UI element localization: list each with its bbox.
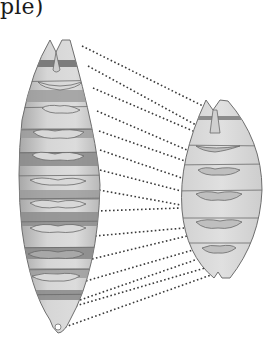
connector-line [99,131,185,161]
embryo-segment-mapping-diagram [0,0,263,339]
connector-line [72,268,205,307]
connector-line [80,259,198,300]
connector-line [65,275,211,327]
connector-line [82,46,207,108]
connector-line [99,190,181,205]
connector-line [97,111,187,150]
connector-line [92,236,187,259]
left-elongated-embryo [0,40,120,333]
right-compact-embryo [170,100,263,278]
connector-line [97,208,181,211]
connector-line [95,228,184,236]
connector-line [93,88,193,131]
connector-line [88,66,196,125]
